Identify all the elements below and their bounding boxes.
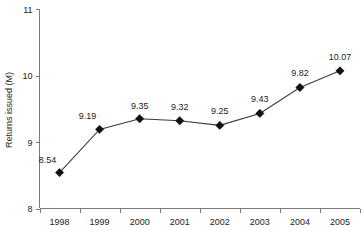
x-axis-group: 19981999200020012002200320042005: [40, 209, 361, 227]
data-point-marker: [176, 117, 184, 125]
x-axis-ticks: [41, 209, 361, 213]
data-point-marker: [256, 109, 264, 117]
x-tick-label: 1998: [50, 217, 70, 227]
x-axis-tick-labels: 19981999200020012002200320042005: [50, 217, 350, 227]
data-point-label: 9.35: [131, 101, 149, 111]
x-tick-label: 2005: [330, 217, 350, 227]
x-tick-label: 2001: [170, 217, 190, 227]
y-axis-group: 891011: [22, 5, 39, 215]
data-point-markers: [55, 67, 344, 177]
data-point-label: 9.19: [79, 111, 97, 121]
data-point-labels: 8.549.199.359.329.259.439.8210.07: [39, 52, 351, 165]
y-tick-label: 10: [22, 71, 32, 81]
y-axis-title: Returns issued (M): [4, 72, 14, 148]
data-point-label: 9.32: [171, 102, 189, 112]
x-tick-label: 2000: [130, 217, 150, 227]
y-tick-label: 8: [27, 204, 32, 214]
x-tick-label: 2002: [210, 217, 230, 227]
data-point-marker: [216, 121, 224, 129]
data-point-label: 9.25: [211, 106, 229, 116]
data-point-marker: [296, 83, 304, 91]
x-tick-label: 1999: [90, 217, 110, 227]
y-axis-ticks: [36, 10, 40, 210]
data-point-label: 9.43: [251, 94, 269, 104]
y-axis-tick-labels: 891011: [22, 5, 32, 215]
x-tick-label: 2004: [290, 217, 310, 227]
chart-container: 891011 19981999200020012002200320042005 …: [0, 0, 364, 237]
x-tick-label: 2003: [250, 217, 270, 227]
y-tick-label: 11: [23, 5, 32, 15]
y-tick-label: 9: [27, 138, 32, 148]
data-point-marker: [336, 67, 344, 75]
data-point-label: 8.54: [39, 155, 57, 165]
data-point-label: 10.07: [329, 52, 352, 62]
data-point-marker: [135, 115, 143, 123]
line-chart: 891011 19981999200020012002200320042005 …: [0, 0, 364, 237]
data-point-label: 9.82: [291, 68, 309, 78]
